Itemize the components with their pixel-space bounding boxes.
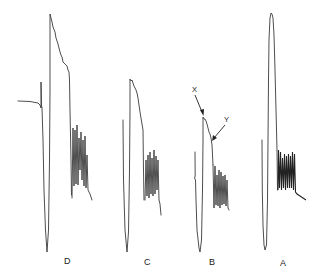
trace-a (262, 13, 306, 250)
trace-label-d: D (64, 256, 71, 266)
trace-label-b: B (209, 257, 215, 267)
annotation-y-arrow (214, 125, 225, 138)
trace-b (195, 117, 230, 252)
trace-label-a: A (280, 258, 286, 268)
annotation-x: X (192, 85, 204, 116)
trace-label-c: C (144, 257, 151, 267)
trace-d (18, 14, 92, 252)
annotation-y-label: Y (224, 115, 229, 124)
trace-c (123, 79, 161, 252)
waveform-figure: X Y D C B A (0, 0, 326, 275)
annotation-x-label: X (192, 85, 197, 94)
annotation-y: Y (212, 115, 229, 141)
annotation-x-arrow (195, 95, 202, 112)
annotation-x-arrowhead (200, 109, 204, 116)
